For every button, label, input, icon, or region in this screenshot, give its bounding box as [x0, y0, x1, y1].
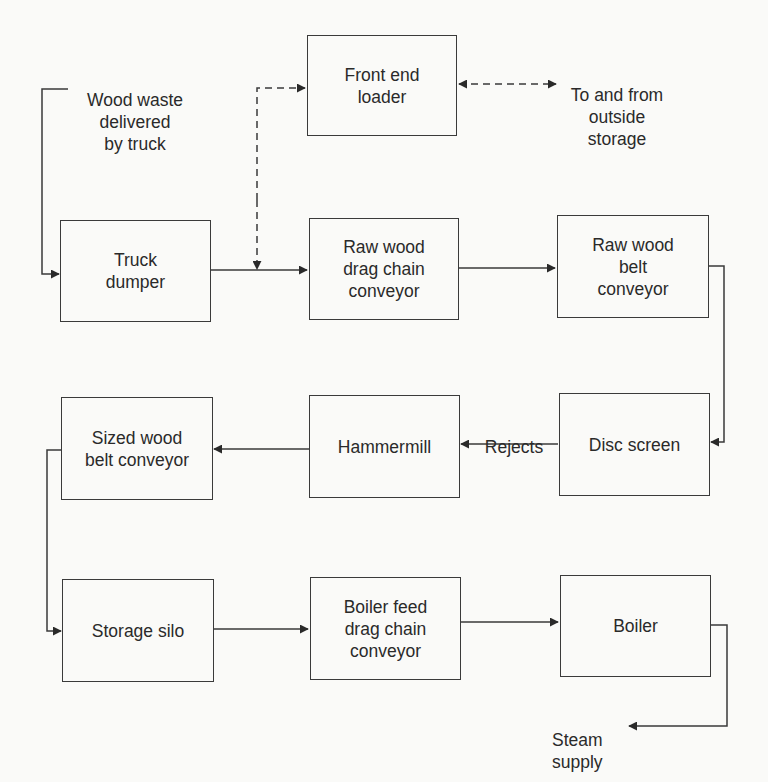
wood-waste-text: Wood waste delivered by truck [87, 90, 183, 154]
rejects-label: Rejects [476, 414, 552, 458]
node-storage-silo: Storage silo [62, 579, 214, 682]
arrow-dashed-to-front-end-loader [257, 88, 305, 200]
node-raw-wood-drag-chain: Raw wood drag chain conveyor [309, 218, 459, 320]
outside-storage-text: To and from outside storage [571, 85, 663, 149]
rejects-text: Rejects [485, 437, 543, 457]
node-disc-screen: Disc screen [559, 393, 710, 496]
node-boiler: Boiler [560, 575, 711, 677]
node-label: Front end loader [345, 64, 420, 108]
node-label: Sized wood belt conveyor [85, 427, 189, 471]
steam-supply-label: Steam supply [552, 707, 622, 773]
node-label: Boiler [613, 615, 658, 637]
node-label: Raw wood drag chain conveyor [343, 236, 425, 302]
steam-supply-text: Steam supply [552, 730, 603, 772]
outside-storage-label: To and from outside storage [562, 62, 672, 150]
arrow-raw-belt-to-disc-screen [708, 266, 724, 442]
node-boiler-feed-drag-chain: Boiler feed drag chain conveyor [310, 577, 461, 680]
node-label: Disc screen [589, 434, 680, 456]
node-label: Storage silo [92, 620, 184, 642]
node-label: Raw wood belt conveyor [592, 234, 674, 300]
node-truck-dumper: Truck dumper [60, 220, 211, 322]
node-label: Boiler feed drag chain conveyor [344, 596, 428, 662]
node-sized-wood-belt: Sized wood belt conveyor [61, 397, 213, 500]
node-label: Hammermill [338, 436, 431, 458]
wood-waste-label: Wood waste delivered by truck [70, 67, 200, 155]
node-label: Truck dumper [106, 249, 165, 293]
arrow-sized-belt-to-silo [47, 450, 61, 631]
node-raw-wood-belt: Raw wood belt conveyor [557, 215, 709, 318]
node-front-end-loader: Front end loader [307, 35, 457, 136]
node-hammermill: Hammermill [309, 395, 460, 498]
